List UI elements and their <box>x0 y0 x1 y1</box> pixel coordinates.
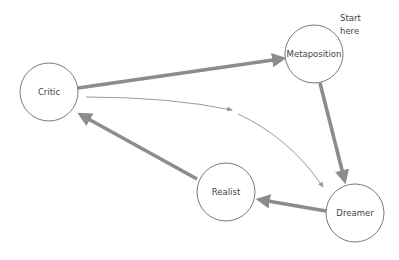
annotation-line-1: Start <box>340 13 361 23</box>
edge-metaposition-to-dreamer <box>320 83 344 178</box>
diagram-canvas: Critic Metaposition Dreamer Realist Star… <box>0 0 399 260</box>
node-critic-label: Critic <box>38 87 60 97</box>
node-metaposition-label: Metaposition <box>287 49 342 59</box>
start-here-annotation: Start here <box>340 13 361 36</box>
node-realist-label: Realist <box>212 187 241 197</box>
annotation-line-2: here <box>340 26 359 36</box>
node-metaposition: Metaposition <box>285 25 343 83</box>
node-dreamer-label: Dreamer <box>336 208 374 218</box>
edge-critic-to-metaposition <box>78 59 280 88</box>
node-realist: Realist <box>197 163 255 221</box>
node-critic: Critic <box>20 63 78 121</box>
edge-dreamer-to-realist <box>262 200 326 211</box>
edge-realist-to-critic <box>83 116 197 179</box>
node-dreamer: Dreamer <box>326 184 384 242</box>
